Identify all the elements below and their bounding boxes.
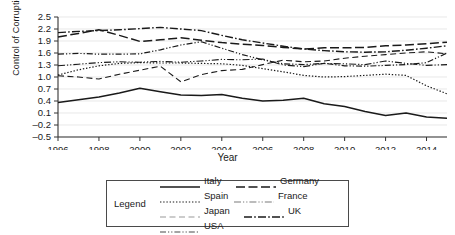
legend-label-usa: USA [204,221,224,231]
legend-entry-spain: Spain [160,189,234,204]
svg-text:2000: 2000 [129,144,150,150]
legend-label-germany: Germany [280,176,319,186]
svg-text:2006: 2006 [252,144,273,150]
legend-entry-france: France [234,189,310,204]
svg-text:2012: 2012 [375,144,396,150]
legend-label-italy: Italy [204,176,221,186]
legend-entry-japan: Japan [160,204,244,219]
svg-text:2010: 2010 [334,144,355,150]
svg-text:2004: 2004 [211,144,232,150]
chart-figure: Control of Corruption 2.52.21.91.61.31.0… [0,0,455,235]
legend-swatch-spain [160,196,200,197]
svg-text:–0.5: –0.5 [33,131,52,142]
legend-entry-uk: UK [244,204,318,219]
legend-swatch-japan [160,211,200,212]
series-line-germany [58,30,447,49]
svg-text:2.2: 2.2 [38,23,51,34]
y-axis-tick-labels: 2.52.21.91.61.31.00.70.40.1–0.2–0.5 [33,11,52,142]
legend-label-japan: Japan [204,206,230,216]
svg-text:2008: 2008 [293,144,314,150]
svg-text:1.3: 1.3 [38,59,51,70]
svg-text:0.7: 0.7 [38,83,51,94]
x-axis-tick-labels: 1996199820002002200420062008201020122014 [47,144,437,150]
legend-swatch-italy [160,181,200,182]
legend-entry-germany: Germany [236,174,320,189]
legend-title: Legend [107,198,160,209]
svg-text:1.9: 1.9 [38,35,51,46]
legend-entry-usa: USA [160,219,236,234]
svg-text:0.4: 0.4 [38,95,51,106]
svg-text:2002: 2002 [170,144,191,150]
svg-text:2.5: 2.5 [38,11,51,22]
legend-swatch-usa [160,226,200,227]
svg-text:2014: 2014 [416,144,437,150]
legend-entry-italy: Italy [160,174,236,189]
legend-label-spain: Spain [204,191,228,201]
legend: Legend ItalyGermanySpainFranceJapanUKUSA [106,180,349,227]
legend-swatch-germany [236,181,276,182]
svg-text:1996: 1996 [47,144,68,150]
x-axis-title: Year [0,152,455,163]
series-line-japan [58,52,447,82]
svg-text:1.6: 1.6 [38,47,51,58]
series-line-italy [58,88,447,118]
svg-text:–0.2: –0.2 [33,119,52,130]
legend-items: ItalyGermanySpainFranceJapanUKUSA [160,174,348,234]
series-line-uk [58,27,447,52]
legend-swatch-uk [244,211,284,212]
gridlines [54,17,447,141]
svg-text:0.1: 0.1 [38,107,51,118]
legend-swatch-france [234,196,274,197]
svg-text:1998: 1998 [88,144,109,150]
plot-area: 2.52.21.91.61.31.00.70.40.1–0.2–0.5 1996… [0,0,455,150]
legend-label-uk: UK [288,206,301,216]
svg-text:1.0: 1.0 [38,71,51,82]
legend-label-france: France [278,191,308,201]
